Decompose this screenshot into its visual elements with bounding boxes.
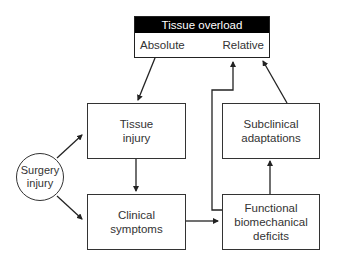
tissue-overload-title: Tissue overload [135,17,269,33]
node-label: deficits [253,229,289,243]
absolute-label: Absolute [140,33,185,57]
clinical-symptoms-box: Clinical symptoms [87,194,186,250]
node-label: Tissue [120,117,153,131]
circle-label: Surgery [21,164,60,177]
surgery-injury-circle: Surgery injury [16,153,64,201]
node-label: injury [123,131,150,145]
tissue-injury-box: Tissue injury [87,103,186,159]
node-label: biomechanical [234,215,308,229]
node-label: Clinical [118,208,155,222]
tissue-overload-box: Tissue overload Absolute Relative [134,16,270,58]
circle-label: injury [27,177,53,190]
relative-label: Relative [222,33,264,57]
node-label: adaptations [241,131,300,145]
node-label: Subclinical [244,117,299,131]
functional-deficits-box: Functional biomechanical deficits [222,194,320,250]
node-label: Functional [244,201,297,215]
subclinical-adaptations-box: Subclinical adaptations [222,103,320,159]
node-label: symptoms [110,222,162,236]
